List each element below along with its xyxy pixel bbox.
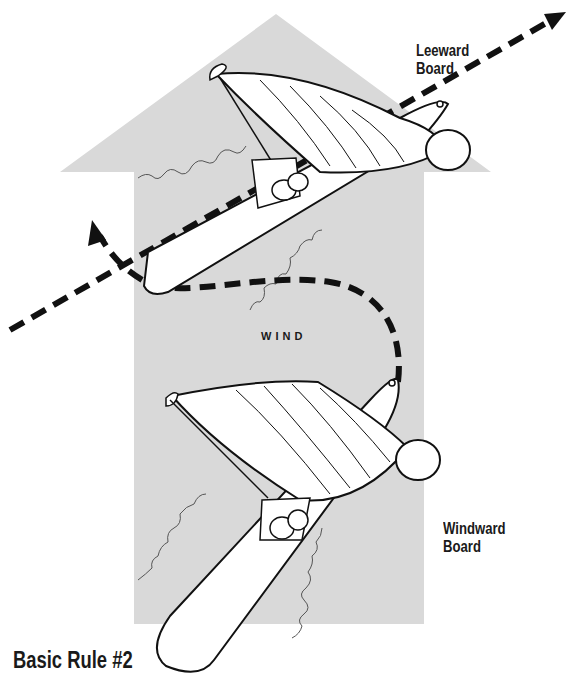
leeward-label-line2: Board [416,60,469,78]
wind-label: WIND [261,330,306,342]
windward-board-label: Windward Board [443,520,506,556]
windward-label-line1: Windward [443,520,506,538]
windward-label-line2: Board [443,538,506,556]
leeward-label-line1: Leeward [416,42,469,60]
leeward-board-label: Leeward Board [416,42,469,78]
diagram-title: Basic Rule #2 [13,648,133,674]
leeward-course-arrowhead [544,12,566,30]
